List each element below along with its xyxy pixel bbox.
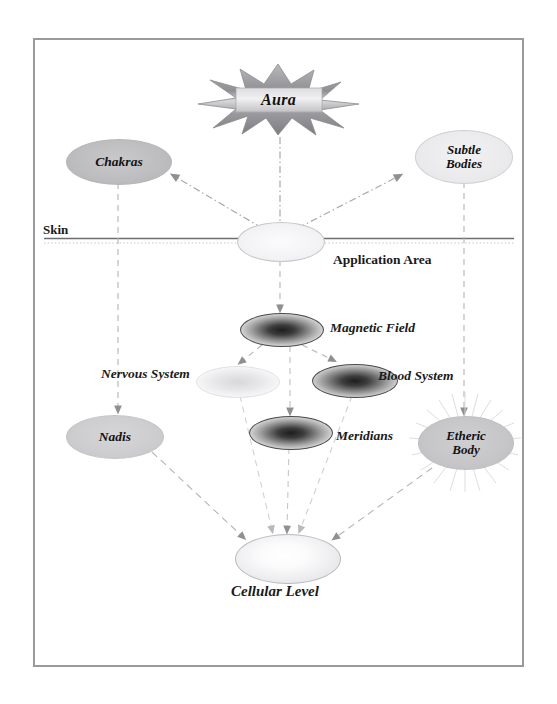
diagram-canvas: Aura Chakras Subtle Bodies Skin Applicat… [0, 0, 557, 704]
node-application-area [237, 222, 325, 262]
node-etheric-body: Etheric Body [408, 392, 522, 492]
node-aura: Aura [196, 62, 361, 137]
cellular-level-label: Cellular Level [231, 583, 319, 600]
node-magnetic-field [240, 313, 324, 347]
chakras-label: Chakras [95, 155, 142, 169]
node-meridians [249, 416, 333, 450]
meridians-label: Meridians [336, 428, 393, 444]
nadis-label: Nadis [99, 430, 131, 444]
nervous-system-label: Nervous System [101, 366, 190, 382]
node-subtle-bodies: Subtle Bodies [415, 130, 513, 184]
aura-label: Aura [196, 62, 361, 137]
node-chakras: Chakras [66, 139, 172, 185]
node-cellular-level [235, 534, 341, 584]
node-nervous-ellipse [196, 366, 280, 398]
etheric-body-ellipse: Etheric Body [418, 416, 514, 470]
subtle-bodies-label: Subtle Bodies [446, 143, 482, 170]
application-area-label: Application Area [333, 252, 431, 268]
skin-label: Skin [43, 222, 68, 238]
blood-system-label: Blood System [378, 368, 453, 384]
node-nadis: Nadis [66, 415, 164, 459]
magnetic-field-label: Magnetic Field [330, 320, 415, 336]
etheric-body-label: Etheric Body [446, 429, 486, 456]
